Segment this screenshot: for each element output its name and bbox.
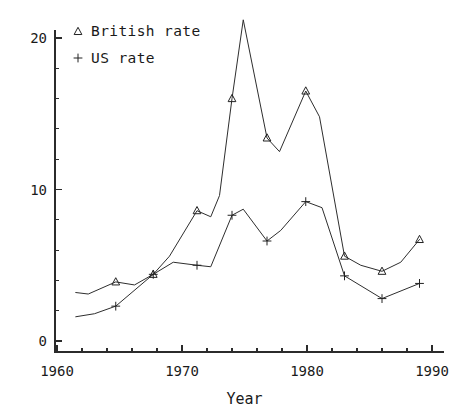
legend-label: British rate (91, 23, 201, 39)
x-axis-tick-label: 1960 (40, 363, 74, 379)
data-point-marker-triangle (193, 207, 201, 214)
y-axis-tick-label: 20 (30, 30, 47, 46)
axis-spines (55, 30, 444, 352)
chart-legend: British rateUS rate (74, 23, 201, 66)
data-point-marker-plus (193, 261, 202, 270)
legend-label: US rate (91, 50, 155, 66)
data-point-marker-triangle (302, 87, 310, 94)
data-point-marker-plus (74, 54, 83, 63)
y-axis-tick-label: 10 (30, 182, 47, 198)
data-point-marker-triangle (416, 235, 424, 242)
data-point-marker-plus (378, 294, 387, 303)
series-line-path (76, 202, 420, 317)
legend-entry: US rate (74, 50, 155, 66)
legend-entry: British rate (74, 23, 200, 39)
data-point-marker-plus (415, 279, 424, 288)
x-axis-title: Year (226, 390, 262, 408)
data-point-marker-triangle (74, 27, 82, 34)
x-axis-tick-label: 1980 (290, 363, 324, 379)
x-axis-tick-label: 1990 (415, 363, 449, 379)
data-point-marker-plus (340, 271, 349, 280)
line-chart: 010201960197019801990Year British rateUS… (0, 0, 455, 417)
data-point-marker-plus (228, 211, 237, 220)
series-us-rate (76, 197, 424, 317)
chart-container: 010201960197019801990Year British rateUS… (0, 0, 455, 417)
axes (55, 30, 444, 352)
data-point-marker-triangle (112, 278, 120, 285)
x-axis-tick-label: 1970 (165, 363, 199, 379)
data-point-marker-plus (263, 237, 272, 246)
y-axis-tick-label: 0 (39, 333, 47, 349)
axis-labels: 010201960197019801990Year (30, 30, 449, 408)
